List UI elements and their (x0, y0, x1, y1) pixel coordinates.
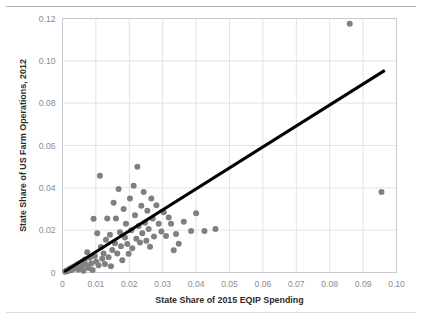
data-point (118, 243, 124, 249)
data-point (131, 183, 137, 189)
data-point (176, 241, 182, 247)
y-tick-label: 0.02 (39, 225, 56, 235)
y-tick-label: 0.12 (39, 14, 56, 24)
data-point (101, 250, 107, 256)
x-tick-label: 0.09 (355, 279, 372, 289)
x-tick-label: 0.04 (188, 279, 205, 289)
data-point (96, 262, 102, 268)
data-point (347, 21, 353, 27)
x-tick-label: 0.07 (288, 279, 305, 289)
data-point (119, 257, 125, 263)
data-point (156, 221, 162, 227)
data-point (171, 247, 177, 253)
data-point (132, 212, 138, 218)
x-axis-tick-labels: 00.010.020.030.040.050.060.070.080.090.1… (60, 279, 405, 289)
data-point (144, 208, 150, 214)
data-point (111, 200, 117, 206)
x-tick-label: 0.06 (255, 279, 272, 289)
y-tick-label: 0.04 (39, 183, 56, 193)
data-point (107, 232, 113, 238)
y-axis-title: State Share of US Farm Operations, 2012 (18, 59, 28, 232)
data-point (153, 202, 159, 208)
y-axis-tick-labels: 00.020.040.060.080.100.12 (39, 14, 56, 278)
data-point (158, 228, 164, 234)
x-tick-label: 0 (60, 279, 65, 289)
data-point (108, 263, 114, 269)
data-point (173, 231, 179, 237)
data-point (109, 247, 115, 253)
data-point (121, 206, 127, 212)
data-point (166, 214, 172, 220)
data-point (116, 186, 122, 192)
data-point (138, 203, 144, 209)
data-point (103, 237, 109, 243)
data-point (113, 216, 119, 222)
y-tick-label: 0 (51, 268, 56, 278)
x-tick-label: 0.05 (221, 279, 238, 289)
y-tick-label: 0.10 (39, 56, 56, 66)
data-point (90, 267, 96, 273)
y-tick-label: 0.06 (39, 141, 56, 151)
y-tick-label: 0.08 (39, 98, 56, 108)
data-point (151, 234, 157, 240)
x-tick-label: 0.10 (388, 279, 405, 289)
data-point (104, 216, 110, 222)
chart-canvas: 00.020.040.060.080.100.1200.010.020.030.… (0, 0, 422, 320)
data-point (97, 173, 103, 179)
data-point (137, 239, 143, 245)
data-point (201, 228, 207, 234)
data-point (127, 195, 133, 201)
data-point (378, 189, 384, 195)
x-tick-label: 0.08 (321, 279, 338, 289)
x-tick-label: 0.02 (121, 279, 138, 289)
chart-figure: 00.020.040.060.080.100.1200.010.020.030.… (0, 0, 422, 320)
data-point (181, 219, 187, 225)
data-point (168, 221, 174, 227)
data-point (188, 228, 194, 234)
data-point (148, 195, 154, 201)
data-point (124, 241, 130, 247)
data-point (134, 164, 140, 170)
data-point (163, 233, 169, 239)
data-point (91, 216, 97, 222)
data-point (147, 244, 153, 250)
x-axis-title: State Share of 2015 EQIP Spending (155, 295, 303, 305)
data-point (193, 210, 199, 216)
data-point (102, 261, 108, 267)
data-point (126, 251, 132, 257)
data-point (114, 250, 120, 256)
scatter-plot: 00.020.040.060.080.100.1200.010.020.030.… (0, 0, 422, 320)
data-point (99, 256, 105, 262)
data-point (94, 230, 100, 236)
data-point (139, 230, 145, 236)
data-point (146, 226, 152, 232)
data-point (123, 221, 129, 227)
x-tick-label: 0.01 (88, 279, 105, 289)
data-point (106, 254, 112, 260)
data-point (212, 226, 218, 232)
data-point (129, 245, 135, 251)
data-point (141, 189, 147, 195)
data-point (143, 238, 149, 244)
x-tick-label: 0.03 (154, 279, 171, 289)
